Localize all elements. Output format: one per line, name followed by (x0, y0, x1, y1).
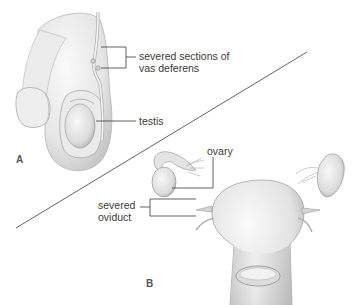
panel-b-leader-lines (140, 157, 213, 216)
female-anatomy-illustration (152, 152, 344, 305)
label-vas-deferens: severed sections of vas deferens (139, 50, 229, 74)
label-testis: testis (139, 115, 164, 127)
label-severed-oviduct-line2: oviduct (98, 211, 135, 223)
panel-letter-b: B (146, 278, 153, 289)
label-severed-oviduct-line1: severed (98, 199, 135, 211)
diagram-artwork (0, 0, 363, 305)
label-vas-deferens-line1: severed sections of (139, 50, 229, 62)
diagram-figure: severed sections of vas deferens testis … (0, 0, 363, 305)
label-severed-oviduct: severed oviduct (98, 199, 135, 223)
label-vas-deferens-line2: vas deferens (139, 62, 229, 74)
panel-letter-a: A (16, 154, 23, 165)
male-anatomy-illustration (16, 12, 112, 171)
label-ovary: ovary (207, 145, 233, 157)
